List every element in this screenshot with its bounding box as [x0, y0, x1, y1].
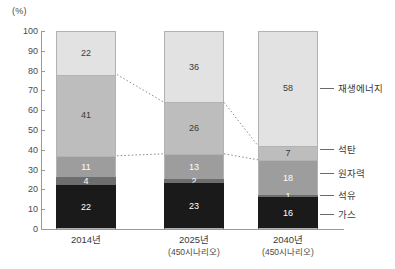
plot-area: 22 41 11 4 22 36 26 13 2 23 58 7 18 1 16: [42, 31, 318, 229]
x-label-2040: 2040년 (450시나리오): [228, 234, 348, 258]
x-label-2014: 2014년: [26, 234, 146, 247]
legend-item-gas[interactable]: 가스: [338, 207, 356, 221]
segment-2014-renewable[interactable]: 22: [56, 31, 116, 75]
y-tick-label-70: 70: [0, 85, 38, 95]
segment-2014-gas[interactable]: 22: [56, 185, 116, 229]
legend-item-nuclear[interactable]: 원자력: [338, 166, 365, 180]
bar-2014[interactable]: 22 41 11 4 22: [56, 31, 116, 229]
segment-2014-oil[interactable]: 4: [56, 177, 116, 185]
segment-2014-nuclear[interactable]: 11: [56, 156, 116, 178]
x-label-2025-main: 2025년: [179, 234, 209, 245]
y-axis-unit-label: (%): [12, 6, 27, 16]
x-label-2040-sub: (450시나리오): [228, 247, 348, 258]
legend-leader-nuclear: [320, 173, 334, 174]
y-tick-label-100: 100: [0, 26, 38, 36]
y-tick-label-60: 60: [0, 105, 38, 115]
stacked-bar-chart: (%) 100 90 80 70 60 50 40 30 20 10 0 22 …: [0, 0, 395, 269]
y-tick-label-0: 0: [0, 224, 38, 234]
legend-item-coal[interactable]: 석탄: [338, 142, 356, 156]
x-label-2040-main: 2040년: [273, 234, 303, 245]
legend-leader-oil: [320, 195, 334, 196]
legend-leader-gas: [320, 214, 334, 215]
y-tick-label-20: 20: [0, 184, 38, 194]
legend-leader-renewable: [320, 88, 334, 89]
x-axis-line: [41, 229, 344, 230]
legend-item-oil[interactable]: 석유: [338, 188, 356, 202]
bar-2040[interactable]: 58 7 18 1 16: [258, 31, 318, 229]
segment-2040-gas[interactable]: 16: [258, 197, 318, 229]
segment-2025-gas[interactable]: 23: [164, 183, 224, 229]
y-tick-label-50: 50: [0, 125, 38, 135]
y-tick-label-10: 10: [0, 204, 38, 214]
segment-2025-renewable[interactable]: 36: [164, 31, 224, 102]
segment-2040-nuclear[interactable]: 18: [258, 160, 318, 196]
segment-2025-coal[interactable]: 26: [164, 102, 224, 153]
y-tick-label-30: 30: [0, 165, 38, 175]
y-tick-label-40: 40: [0, 145, 38, 155]
segment-2040-coal[interactable]: 7: [258, 146, 318, 160]
legend-item-renewable[interactable]: 재생에너지: [338, 81, 383, 95]
segment-2014-coal[interactable]: 41: [56, 75, 116, 156]
segment-2040-renewable[interactable]: 58: [258, 31, 318, 146]
y-tick-label-90: 90: [0, 46, 38, 56]
legend-leader-coal: [320, 149, 334, 150]
bar-2025[interactable]: 36 26 13 2 23: [164, 31, 224, 229]
y-tick-label-80: 80: [0, 66, 38, 76]
x-label-2014-main: 2014년: [71, 234, 101, 245]
